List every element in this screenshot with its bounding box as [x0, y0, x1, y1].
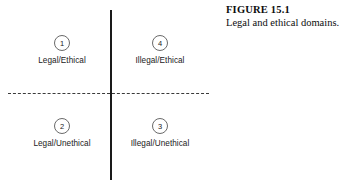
quadrant-number-badge: 1	[54, 35, 70, 51]
quadrant-number-badge: 4	[152, 35, 168, 51]
quadrant-bottom-right: 3 Illegal/Unethical	[108, 118, 212, 148]
quadrant-label: Legal/Unethical	[10, 139, 114, 148]
figure-container: 1 Legal/Ethical 4 Illegal/Ethical 2 Lega…	[0, 0, 363, 188]
quadrant-label: Illegal/Ethical	[108, 56, 212, 65]
quadrant-bottom-left: 2 Legal/Unethical	[10, 118, 114, 148]
quadrant-number-badge: 3	[152, 118, 168, 134]
quadrant-label: Legal/Ethical	[10, 56, 114, 65]
quadrant-label: Illegal/Unethical	[108, 139, 212, 148]
quadrant-top-left: 1 Legal/Ethical	[10, 35, 114, 65]
figure-caption: FIGURE 15.1 Legal and ethical domains.	[226, 4, 363, 29]
figure-caption-title: FIGURE 15.1	[226, 4, 363, 16]
figure-caption-text: Legal and ethical domains.	[226, 17, 363, 29]
quadrant-number-badge: 2	[54, 118, 70, 134]
quadrant-top-right: 4 Illegal/Ethical	[108, 35, 212, 65]
horizontal-dashed-axis-line	[8, 93, 209, 94]
